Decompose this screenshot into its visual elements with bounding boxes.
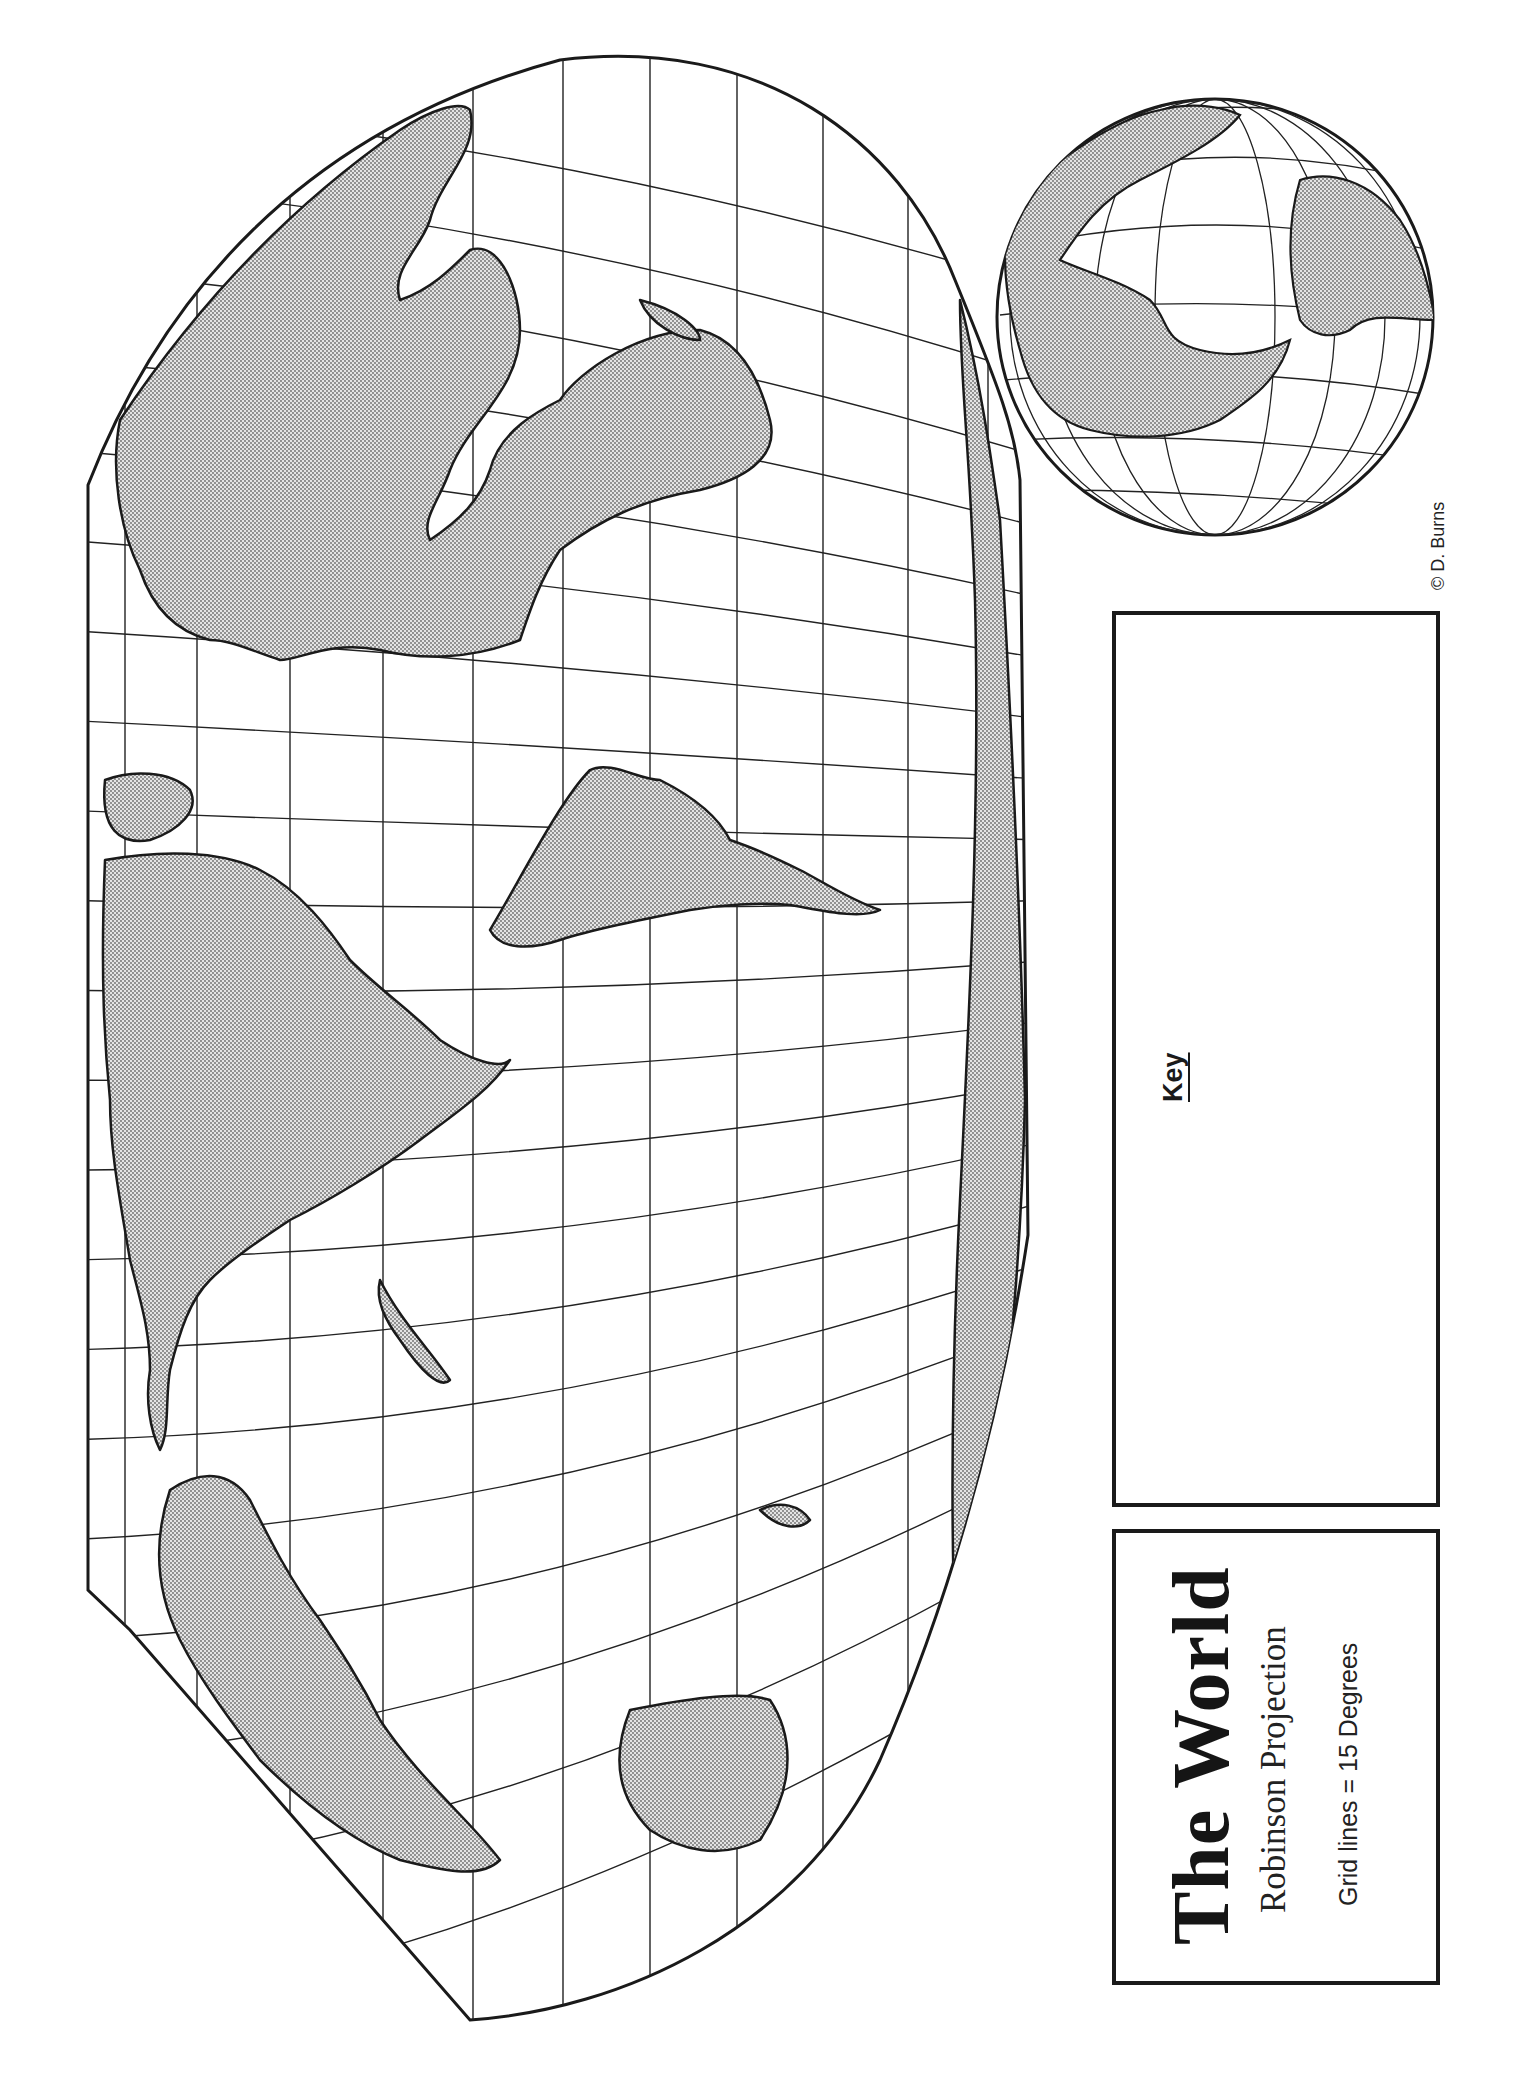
title-box: The World Robinson Projection Grid lines…	[1112, 1529, 1440, 1985]
globe-land-right	[1291, 176, 1435, 335]
map-title: The World	[1156, 1566, 1247, 1945]
projection-label: Robinson Projection	[1254, 1626, 1294, 1913]
inset-globe	[997, 99, 1435, 535]
map-body	[60, 0, 1050, 2097]
key-label: Key	[1158, 1052, 1189, 1102]
key-box: Key	[1112, 611, 1440, 1507]
copyright-credit: © D. Burns	[1428, 502, 1449, 590]
grid-note: Grid lines = 15 Degrees	[1334, 1643, 1363, 1906]
